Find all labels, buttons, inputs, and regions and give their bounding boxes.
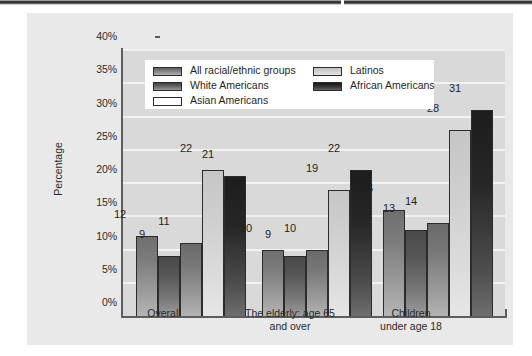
bar-value-label: 10 bbox=[277, 222, 303, 234]
y-axis-tick-label: 35% bbox=[71, 63, 117, 75]
x-axis-group-label-line: The elderly: age 65 bbox=[245, 307, 335, 319]
x-axis-group-label-line: under age 18 bbox=[380, 320, 442, 332]
y-axis-tick-label: 30% bbox=[71, 97, 117, 109]
y-axis-title: Percentage bbox=[52, 124, 64, 214]
x-axis-group-label-line: Children bbox=[391, 307, 430, 319]
chart-figure-panel: 0%5%10%15%20%25%30%35%40% Percentage 121… bbox=[27, 13, 513, 345]
bar-value-label: 16 bbox=[354, 182, 380, 194]
y-axis-tick-label: 15% bbox=[71, 196, 117, 208]
bar-value-label: 21 bbox=[195, 148, 221, 160]
legend-label: Latinos bbox=[350, 64, 384, 76]
y-axis-tick-label: 10% bbox=[71, 230, 117, 242]
y-axis-tick-labels: 0%5%10%15%20%25%30%35%40% bbox=[65, 13, 117, 345]
page-top-rule-nick bbox=[341, 0, 344, 5]
bar-value-label: 11 bbox=[151, 215, 177, 227]
bar bbox=[328, 190, 350, 316]
legend-label: African Americans bbox=[350, 79, 435, 91]
gridline bbox=[123, 116, 505, 118]
bar-value-label: 31 bbox=[442, 82, 468, 94]
bar-value-label: 19 bbox=[299, 162, 325, 174]
bar bbox=[449, 130, 471, 316]
chart-legend: All racial/ethnic groupsWhite AmericansA… bbox=[145, 60, 434, 109]
bar bbox=[136, 236, 158, 316]
x-axis-group-label: The elderly: age 65and over bbox=[230, 307, 350, 333]
bar-value-label: 9 bbox=[129, 228, 155, 240]
y-axis-tick-label: 5% bbox=[71, 263, 117, 275]
x-axis-group-label-line: and over bbox=[270, 320, 311, 332]
legend-label: All racial/ethnic groups bbox=[190, 64, 296, 76]
bar bbox=[180, 243, 202, 316]
bar bbox=[405, 230, 427, 316]
bar-value-label: 12 bbox=[107, 208, 133, 220]
bar bbox=[202, 170, 224, 316]
y-axis-tick-mark bbox=[155, 36, 160, 38]
legend-swatch bbox=[153, 82, 182, 91]
bar bbox=[471, 110, 493, 316]
legend-swatch bbox=[153, 97, 182, 106]
bar-value-label: 22 bbox=[321, 142, 347, 154]
page-top-rule bbox=[0, 0, 532, 5]
legend-label: Asian Americans bbox=[190, 94, 268, 106]
legend-swatch bbox=[153, 67, 182, 76]
legend-swatch bbox=[313, 82, 342, 91]
gridline bbox=[123, 215, 505, 217]
x-axis-endcap bbox=[505, 309, 507, 318]
x-axis-group-label: Overall bbox=[104, 307, 224, 320]
gridline bbox=[123, 49, 505, 51]
y-axis-tick-label: 20% bbox=[71, 163, 117, 175]
bar-value-label: 14 bbox=[398, 195, 424, 207]
y-axis-tick-label: 25% bbox=[71, 130, 117, 142]
gridline bbox=[123, 182, 505, 184]
legend-label: White Americans bbox=[190, 79, 269, 91]
legend-swatch bbox=[313, 67, 342, 76]
x-axis-group-label-line: Overall bbox=[147, 307, 180, 319]
x-axis-group-label: Childrenunder age 18 bbox=[351, 307, 471, 333]
bar bbox=[383, 210, 405, 316]
y-axis-tick-label: 40% bbox=[71, 30, 117, 42]
bar bbox=[224, 176, 246, 316]
bar bbox=[427, 223, 449, 316]
